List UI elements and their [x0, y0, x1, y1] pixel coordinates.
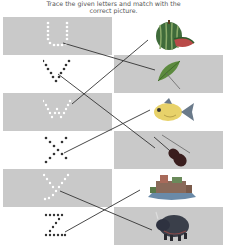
letter-row-w[interactable] — [3, 93, 112, 131]
yak-icon — [136, 209, 206, 243]
watermelon-icon — [136, 19, 206, 53]
letter-row-y[interactable] — [3, 169, 112, 207]
dotted-letter-x-icon — [43, 135, 73, 165]
picture-row-yak[interactable] — [114, 207, 223, 245]
umbrella-icon — [136, 57, 206, 91]
letter-row-v[interactable] — [3, 55, 112, 93]
dotted-letter-y-icon — [43, 173, 73, 203]
dotted-letter-u-icon — [43, 21, 73, 51]
fish-icon — [136, 95, 206, 129]
letter-row-z[interactable] — [3, 207, 112, 245]
instruction-line-2: correct picture. — [0, 7, 227, 14]
instruction-text: Trace the given letters and match with t… — [0, 0, 227, 14]
instruction-line-1: Trace the given letters and match with t… — [0, 0, 227, 7]
picture-row-watermelon[interactable] — [114, 17, 223, 55]
picture-row-fish[interactable] — [114, 93, 223, 131]
picture-row-yacht[interactable] — [114, 169, 223, 207]
letter-row-u[interactable] — [3, 17, 112, 55]
dotted-letter-z-icon — [43, 211, 73, 241]
violin-icon — [136, 133, 206, 167]
picture-row-violin[interactable] — [114, 131, 223, 169]
picture-row-umbrella[interactable] — [114, 55, 223, 93]
letter-row-x[interactable] — [3, 131, 112, 169]
dotted-letter-w-icon — [43, 97, 73, 127]
dotted-letter-v-icon — [43, 59, 73, 89]
yacht-icon — [136, 171, 206, 205]
